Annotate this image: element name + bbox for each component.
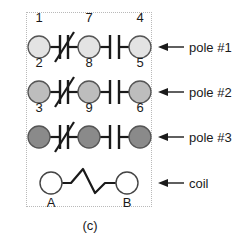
terminal-number-right: 4 [131,11,149,24]
callout-coil: coil [158,175,209,191]
callout-label-pole-2: pole #2 [189,86,232,99]
terminal-number-right: 6 [131,101,149,114]
coil-terminal-label-b: B [118,196,136,209]
terminal-number-middle: 7 [80,11,98,24]
coil-row: A B [26,160,152,206]
terminal-circle-middle[interactable] [78,126,100,148]
terminal-number-middle: 9 [80,101,98,114]
pole-row-3: 3 9 6 [26,114,152,160]
left-arrow-icon [158,178,184,188]
terminal-number-left: 3 [30,101,48,114]
callout-label-coil: coil [189,177,209,190]
coil-terminal-label-a: A [42,196,60,209]
terminal-number-middle: 8 [80,56,98,69]
terminal-number-left: 2 [30,56,48,69]
terminal-number-left: 1 [30,11,48,24]
figure-caption: (c) [0,218,180,233]
normally-open-contact-icon [110,35,119,59]
left-arrow-icon [158,87,184,97]
terminal-circle-right[interactable] [129,126,151,148]
callout-pole-2: pole #2 [158,84,232,100]
terminal-circle-left[interactable] [28,126,50,148]
coil-terminal-circle-a[interactable] [40,172,62,194]
relay-schematic-figure: 1 7 4 2 8 5 [0,0,240,242]
normally-open-contact-icon [110,80,119,104]
terminal-number-right: 5 [131,56,149,69]
coil-terminal-circle-b[interactable] [116,172,138,194]
callout-label-pole-3: pole #3 [189,131,232,144]
coil-zigzag-icon [63,169,115,193]
callout-label-pole-1: pole #1 [189,41,232,54]
left-arrow-icon [158,42,184,52]
normally-open-contact-icon [110,125,119,149]
callout-pole-1: pole #1 [158,39,232,55]
left-arrow-icon [158,132,184,142]
callout-pole-3: pole #3 [158,129,232,145]
pole-3-circuit [26,114,152,160]
